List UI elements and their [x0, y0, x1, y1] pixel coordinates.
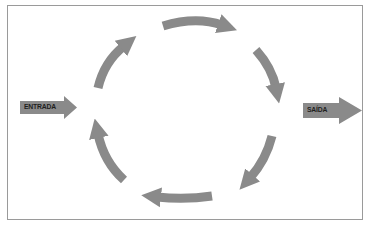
- cycle-arrow-bottom: [157, 196, 212, 198]
- cycle-arrow-lower-left: [98, 134, 124, 180]
- cycle-arrow-upper-right: [256, 50, 276, 88]
- cycle-arrow-top: [163, 21, 222, 26]
- cycle-arrow-upper-left: [98, 46, 124, 88]
- cycle-arrow-lower-right: [250, 136, 272, 178]
- input-label: ENTRADA: [24, 102, 56, 111]
- output-label: SAÍDA: [307, 105, 327, 114]
